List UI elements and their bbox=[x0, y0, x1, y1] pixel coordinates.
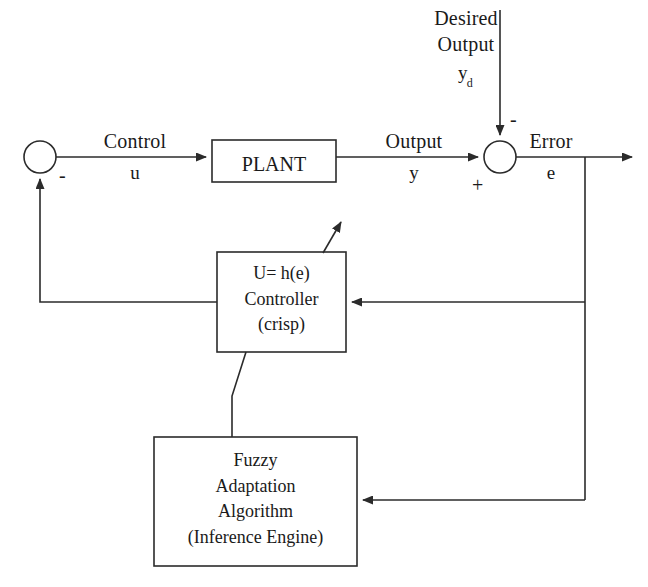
right-junction-plus-sign: + bbox=[472, 174, 483, 196]
summing-junction-right bbox=[484, 141, 516, 173]
fuzzy-line-3: Algorithm bbox=[154, 499, 357, 525]
desired-output-symbol: yd bbox=[458, 62, 474, 87]
block-diagram-canvas: Control u Output y Error e Desired Outpu… bbox=[0, 0, 648, 587]
left-junction-minus-sign: - bbox=[59, 164, 66, 186]
summing-junction-left bbox=[24, 141, 56, 173]
fuzzy-line-1: Fuzzy bbox=[154, 448, 357, 474]
fuzzy-line-2: Adaptation bbox=[154, 474, 357, 500]
controller-to-fuzzy-link bbox=[232, 352, 246, 437]
control-symbol-label: u bbox=[130, 162, 140, 183]
adaptation-out-arrow bbox=[323, 222, 341, 253]
desired-output-symbol-subscript: d bbox=[467, 76, 473, 90]
desired-output-line1: Desired bbox=[434, 7, 498, 29]
fuzzy-block-label: Fuzzy Adaptation Algorithm (Inference En… bbox=[154, 448, 357, 550]
control-signal-label: Control bbox=[104, 130, 167, 152]
plant-block-label: PLANT bbox=[212, 150, 336, 178]
controller-block-label: U= h(e) Controller (crisp) bbox=[217, 261, 346, 338]
controller-line-1: U= h(e) bbox=[217, 261, 346, 287]
output-signal-label: Output bbox=[386, 130, 443, 152]
controller-line-2: Controller bbox=[217, 287, 346, 313]
desired-output-line2: Output bbox=[438, 33, 495, 55]
error-signal-label: Error bbox=[529, 130, 572, 152]
right-junction-minus-sign: - bbox=[510, 108, 517, 130]
plant-label-text: PLANT bbox=[212, 150, 336, 178]
controller-feedback-arrow bbox=[40, 179, 217, 302]
fuzzy-line-4: (Inference Engine) bbox=[154, 525, 357, 551]
controller-line-3: (crisp) bbox=[217, 312, 346, 338]
error-symbol-label: e bbox=[547, 162, 556, 183]
output-symbol-label: y bbox=[409, 162, 419, 183]
